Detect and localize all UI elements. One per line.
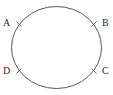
circle-outline [12,7,102,89]
geometry-figure: A B C D [0,0,113,95]
circle-diagram-canvas [0,0,113,95]
point-label-a: A [3,18,10,28]
point-label-d: D [3,66,10,76]
point-label-b: B [102,18,109,28]
point-label-c: C [102,66,109,76]
